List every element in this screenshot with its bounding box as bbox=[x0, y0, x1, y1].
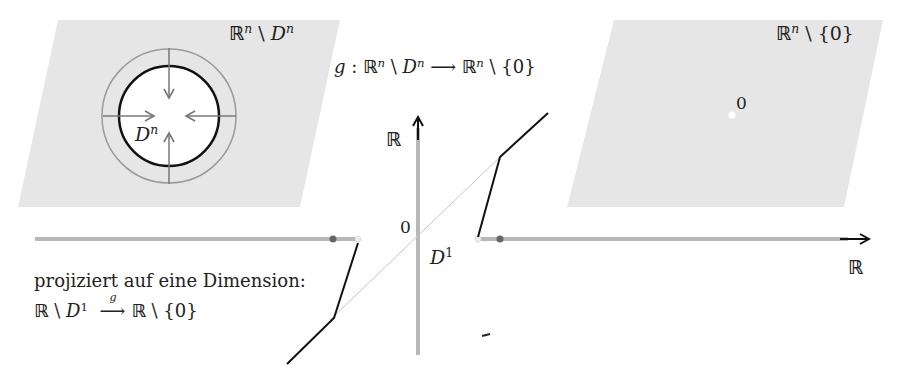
caption-line-1: projiziert auf eine Dimension: bbox=[34, 272, 306, 290]
y-axis-label: ℝ bbox=[386, 130, 401, 149]
map-sup: n bbox=[377, 56, 385, 70]
cap-R: ℝ bbox=[34, 300, 48, 321]
origin-hole bbox=[729, 112, 736, 119]
x-axis-label: ℝ bbox=[848, 258, 863, 277]
cap-setminus: \ bbox=[48, 300, 66, 321]
interval-sup: 1 bbox=[445, 246, 453, 260]
cap-sup: 1 bbox=[80, 300, 87, 314]
set-D: D bbox=[271, 22, 286, 44]
map-D: D bbox=[403, 56, 417, 77]
left-plane-label: ℝn \ Dn bbox=[229, 24, 294, 43]
point-right bbox=[497, 236, 504, 243]
map-rest: \ {0} bbox=[484, 56, 536, 77]
set-R: ℝ bbox=[229, 22, 244, 44]
map-R2: ℝ bbox=[462, 56, 476, 77]
diagram-canvas: ℝn \ Dn Dn g : ℝn \ Dn ⟶ ℝn \ {0} ℝn \ {… bbox=[0, 0, 901, 384]
sup-n: n bbox=[791, 22, 799, 36]
interval-label: D1 bbox=[430, 248, 453, 267]
map-colon: : bbox=[346, 56, 364, 77]
open-left bbox=[355, 236, 361, 242]
disk-label: Dn bbox=[135, 125, 158, 144]
sup-n: n bbox=[244, 22, 252, 36]
cap-rest: \ {0} bbox=[146, 300, 198, 321]
right-origin-label: 0 bbox=[736, 95, 747, 112]
map-g: g bbox=[334, 56, 346, 77]
cap-arrow-wrap: g ⟶ bbox=[100, 302, 126, 320]
cap-R2: ℝ bbox=[131, 300, 145, 321]
interval-D: D bbox=[430, 246, 445, 268]
point-left bbox=[330, 236, 337, 243]
origin-label: 0 bbox=[400, 219, 411, 236]
map-arrow: ⟶ bbox=[425, 56, 462, 77]
set-rest: \ {0} bbox=[799, 22, 854, 44]
caption-line-2: ℝ \ D1 g ⟶ ℝ \ {0} bbox=[34, 302, 198, 320]
map-R: ℝ bbox=[363, 56, 377, 77]
sup-n: n bbox=[286, 22, 294, 36]
map-sup: n bbox=[417, 56, 425, 70]
right-plane-region bbox=[567, 20, 883, 207]
cap-D: D bbox=[66, 300, 80, 321]
set-R: ℝ bbox=[776, 22, 791, 44]
map-setminus: \ bbox=[385, 56, 403, 77]
map-title: g : ℝn \ Dn ⟶ ℝn \ {0} bbox=[334, 58, 536, 76]
setminus: \ bbox=[252, 22, 270, 44]
disk-sup: n bbox=[150, 123, 158, 137]
graph-right-branch bbox=[478, 113, 548, 237]
cap-g: g bbox=[110, 292, 117, 303]
stray-mark bbox=[482, 334, 490, 336]
disk-D: D bbox=[135, 123, 150, 145]
right-plane-label: ℝn \ {0} bbox=[776, 24, 854, 43]
map-sup: n bbox=[476, 56, 484, 70]
